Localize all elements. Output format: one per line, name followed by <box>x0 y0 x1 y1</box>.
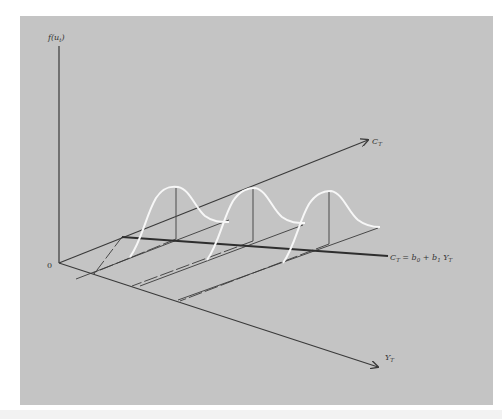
c-axis <box>59 140 368 263</box>
vertical-axis-label: f(ut) <box>47 33 65 43</box>
y-axis <box>59 263 378 367</box>
regression-diagram: f(ut) 0 CT YT CT = b0 + b1 YT <box>0 0 502 419</box>
regression-equation-label: CT = b0 + b1 YT <box>390 253 452 263</box>
regression-line <box>122 237 388 256</box>
dashed-projection-lines <box>94 237 122 274</box>
peak-lines <box>176 188 329 244</box>
distribution-curves <box>130 187 380 263</box>
origin-label: 0 <box>47 261 52 270</box>
projection-lines <box>76 220 378 301</box>
y-axis-label: YT <box>385 353 394 363</box>
c-axis-label: CT <box>372 137 382 147</box>
